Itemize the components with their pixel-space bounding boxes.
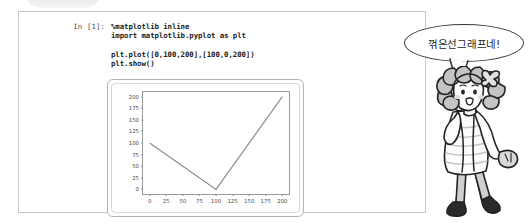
cell-prompt-label: In [1]: bbox=[63, 22, 105, 31]
ytick-mark bbox=[141, 177, 143, 178]
code-line-3: plt.plot([0,100,200],[100,0,200]) bbox=[111, 50, 255, 59]
xtick-mark bbox=[265, 194, 266, 196]
xtick-mark bbox=[166, 194, 167, 196]
xtick-label: 100 bbox=[211, 198, 221, 204]
xtick-mark bbox=[249, 194, 250, 196]
page-tab-decoration bbox=[26, 0, 100, 8]
ytick-mark bbox=[141, 131, 143, 132]
ytick-mark bbox=[141, 108, 143, 109]
ytick-mark bbox=[141, 96, 143, 97]
xtick-label: 0 bbox=[148, 198, 151, 204]
matplotlib-figure: 0255075100125150175200025507510012515017… bbox=[112, 84, 299, 212]
cell-output-plot-container: 0255075100125150175200025507510012515017… bbox=[107, 79, 304, 217]
xtick-mark bbox=[149, 194, 150, 196]
ytick-label: 50 bbox=[132, 163, 139, 169]
code-line-4: plt.show() bbox=[111, 59, 255, 68]
ytick-label: 100 bbox=[129, 140, 139, 146]
ytick-label: 200 bbox=[129, 94, 139, 100]
xtick-label: 50 bbox=[179, 198, 186, 204]
xtick-label: 175 bbox=[261, 198, 271, 204]
xtick-label: 25 bbox=[163, 198, 170, 204]
code-line-2: import matplotlib.pyplot as plt bbox=[111, 31, 255, 40]
plot-axes: 0255075100125150175200025507510012515017… bbox=[142, 91, 290, 195]
ytick-label: 75 bbox=[132, 152, 139, 158]
xtick-mark bbox=[216, 194, 217, 196]
xtick-label: 150 bbox=[244, 198, 254, 204]
xtick-mark bbox=[282, 194, 283, 196]
code-blank-line bbox=[111, 41, 255, 50]
ytick-label: 125 bbox=[129, 128, 139, 134]
code-line-1: %matplotlib inline bbox=[111, 22, 255, 31]
xtick-mark bbox=[232, 194, 233, 196]
notebook-screenshot-frame: In [1]: %matplotlib inline import matplo… bbox=[18, 11, 426, 213]
ytick-label: 0 bbox=[136, 186, 139, 192]
xtick-label: 200 bbox=[277, 198, 287, 204]
xtick-label: 125 bbox=[227, 198, 237, 204]
ytick-label: 25 bbox=[132, 175, 139, 181]
plot-line-series bbox=[143, 92, 289, 194]
plot-inner-border: 0255075100125150175200025507510012515017… bbox=[111, 83, 300, 213]
xtick-label: 75 bbox=[196, 198, 203, 204]
ytick-mark bbox=[141, 166, 143, 167]
xtick-mark bbox=[182, 194, 183, 196]
ytick-mark bbox=[141, 119, 143, 120]
xtick-mark bbox=[199, 194, 200, 196]
ytick-label: 150 bbox=[129, 117, 139, 123]
ytick-mark bbox=[141, 154, 143, 155]
code-editor-area[interactable]: %matplotlib inline import matplotlib.pyp… bbox=[111, 22, 255, 69]
ytick-label: 175 bbox=[129, 105, 139, 111]
speech-bubble: 꺾은선그래프네! bbox=[404, 24, 524, 62]
ytick-mark bbox=[141, 143, 143, 144]
curly-haired-girl-icon bbox=[420, 66, 526, 223]
ytick-mark bbox=[141, 189, 143, 190]
